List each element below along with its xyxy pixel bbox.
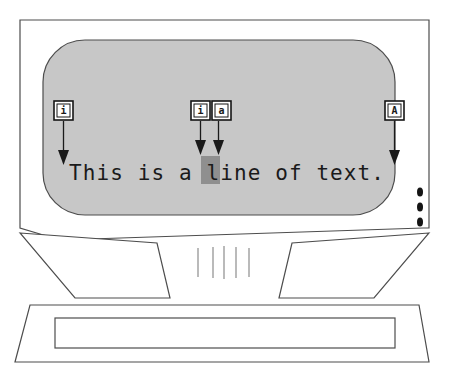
stand-vent-lines	[198, 246, 249, 279]
middle-key-1-letter: i	[197, 105, 203, 116]
screen-text-line: This is a line of text.	[69, 161, 385, 185]
figure-canvas: This is a line of text. i i a	[0, 0, 449, 381]
monitor-base-inset	[55, 318, 395, 348]
left-key-letter: i	[60, 105, 66, 116]
right-key-letter: A	[391, 105, 397, 116]
monitor-status-leds	[417, 188, 423, 227]
monitor-stand-left-leg	[20, 233, 170, 298]
middle-key-2-letter: a	[218, 105, 224, 116]
led-indicator-3	[417, 218, 423, 227]
led-indicator-2	[417, 203, 423, 212]
monitor-stand-right-leg	[279, 233, 429, 298]
led-indicator-1	[417, 188, 423, 197]
